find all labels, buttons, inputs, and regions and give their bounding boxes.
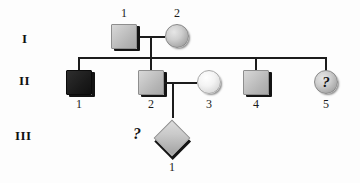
individual-ii-1-number: 1 [68,97,90,112]
individual-ii-2-square[interactable] [138,70,164,95]
individual-ii-2-number: 2 [140,97,162,112]
individual-ii-1-square[interactable] [66,70,92,95]
descent-line-gen2 [172,82,174,118]
mating-line-ii2-ii3 [164,82,197,84]
individual-ii-4-number: 4 [245,97,267,112]
individual-ii-4-square[interactable] [243,70,269,95]
drop-line-ii-1 [78,57,80,71]
individual-i-2-circle[interactable] [165,24,189,48]
individual-ii-3-circle[interactable] [197,70,221,94]
individual-ii-5-circle[interactable] [314,70,338,94]
drop-line-ii-5 [325,57,327,71]
individual-iii-1-number: 1 [161,160,183,175]
generation-label-ii: II [19,73,30,89]
individual-i-1-number: 1 [113,6,135,21]
question-mark-annotation: ? [133,125,141,143]
individual-ii-5-number: 5 [315,97,337,112]
sibship-line-gen2 [78,57,327,59]
individual-ii-3-number: 3 [198,97,220,112]
descent-line-gen1 [150,36,152,58]
individual-i-2-number: 2 [166,6,188,21]
individual-iii-1-diamond[interactable] [154,120,191,157]
drop-line-ii-4 [255,57,257,71]
pedigree-chart: I II III 1 2 1 2 3 4 ? 5 ? 1 [0,0,360,183]
generation-label-i: I [22,31,28,47]
individual-i-1-square[interactable] [111,24,137,49]
generation-label-iii: III [15,128,32,144]
drop-line-ii-2 [150,57,152,71]
